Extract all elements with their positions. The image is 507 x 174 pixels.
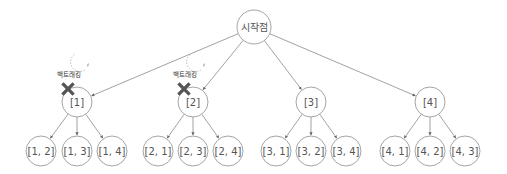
edge-root-to-n1 xyxy=(92,34,239,96)
node-n3: [3] xyxy=(296,87,326,117)
root-node: 시작점 xyxy=(237,10,271,44)
node-label: [1, 2] xyxy=(28,146,55,157)
node-label: [2, 3] xyxy=(180,146,207,157)
node-label: [3] xyxy=(304,97,318,108)
edge-root-to-n4 xyxy=(270,34,416,96)
backtracking-tree-diagram: 시작점[1][2][3][4][1, 2][1, 3][1, 4][2, 1][… xyxy=(0,0,507,174)
edge-n4-to-leaf xyxy=(439,114,456,138)
node-label: [3, 1] xyxy=(263,146,290,157)
edge-root-to-n3 xyxy=(264,41,301,90)
leaf-node: [4, 2] xyxy=(415,136,445,166)
leaf-node: [1, 4] xyxy=(97,136,127,166)
edge-n1-to-leaf xyxy=(50,114,68,138)
leaf-node: [4, 1] xyxy=(380,136,410,166)
backtrack-loop-arrow xyxy=(187,54,201,71)
node-label: [4, 1] xyxy=(382,146,409,157)
node-label: [3, 2] xyxy=(298,146,325,157)
node-label: [3, 4] xyxy=(333,146,360,157)
edge-n2-to-leaf xyxy=(202,114,219,138)
leaf-node: [3, 1] xyxy=(261,136,291,166)
node-label: [2, 1] xyxy=(145,146,172,157)
edge-n3-to-leaf xyxy=(320,114,337,138)
leaf-node: [2, 3] xyxy=(178,136,208,166)
node-label: [4, 2] xyxy=(417,146,444,157)
node-label: [2, 4] xyxy=(215,146,242,157)
edge-n3-to-leaf xyxy=(285,114,302,138)
edge-n1-to-leaf xyxy=(86,114,103,138)
backtrack-label: 백트래킹 xyxy=(173,70,197,79)
edge-root-to-n2 xyxy=(203,40,243,89)
leaf-node: [1, 3] xyxy=(62,136,92,166)
backtrack-loop-arrow xyxy=(71,54,85,71)
backtrack-label: 백트래킹 xyxy=(57,70,81,79)
leaf-node: [2, 1] xyxy=(143,136,173,166)
node-label: [4] xyxy=(423,97,437,108)
node-label: [1, 4] xyxy=(99,146,126,157)
node-n4: [4] xyxy=(415,87,445,117)
loop-arrowhead-icon xyxy=(203,63,205,67)
node-label: [2] xyxy=(186,97,200,108)
tree-nodes: 시작점[1][2][3][4][1, 2][1, 3][1, 4][2, 1][… xyxy=(26,10,480,166)
edge-n2-to-leaf xyxy=(167,114,184,138)
edge-n4-to-leaf xyxy=(404,114,421,138)
tree-edges xyxy=(50,34,455,138)
node-label: 시작점 xyxy=(241,22,268,33)
node-label: [1, 3] xyxy=(64,146,91,157)
leaf-node: [2, 4] xyxy=(213,136,243,166)
leaf-node: [3, 4] xyxy=(331,136,361,166)
leaf-node: [4, 3] xyxy=(450,136,480,166)
leaf-node: [1, 2] xyxy=(26,136,56,166)
node-label: [4, 3] xyxy=(452,146,479,157)
node-label: [1] xyxy=(70,97,84,108)
leaf-node: [3, 2] xyxy=(296,136,326,166)
loop-arrowhead-icon xyxy=(87,63,89,67)
